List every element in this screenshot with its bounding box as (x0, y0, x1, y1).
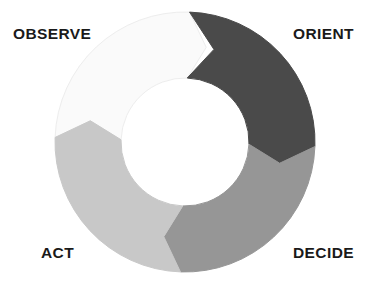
ooda-loop-diagram: OBSERVE ORIENT ACT DECIDE (0, 0, 367, 286)
phase-label-decide: DECIDE (293, 245, 354, 261)
ooda-segment-act (55, 121, 183, 272)
phase-label-act: ACT (41, 245, 74, 261)
phase-label-orient: ORIENT (293, 26, 354, 42)
phase-label-observe: OBSERVE (13, 26, 91, 42)
